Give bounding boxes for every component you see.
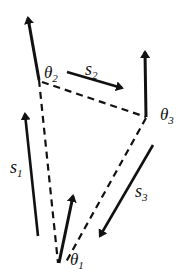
theta-1-label: θ1: [70, 250, 84, 271]
velocity-arrow-p2: [28, 18, 39, 80]
separation-p3-p1: [66, 118, 146, 262]
theta-2-label: θ2: [44, 63, 58, 84]
side-arrows: [25, 72, 153, 236]
separation-p2-p1: [39, 80, 58, 263]
s2-label: s2: [85, 59, 98, 81]
s3-label: s3: [135, 181, 148, 203]
particle-triangle-diagram: θ2 θ3 θ1 s1 s2 s3: [0, 0, 186, 279]
side-arrow-s1: [25, 114, 38, 236]
velocity-arrow-p3: [145, 52, 146, 117]
theta-3-label: θ3: [160, 105, 174, 126]
separation-lines: [39, 80, 146, 263]
s1-label: s1: [10, 157, 23, 179]
separation-p2-p3: [42, 82, 146, 117]
